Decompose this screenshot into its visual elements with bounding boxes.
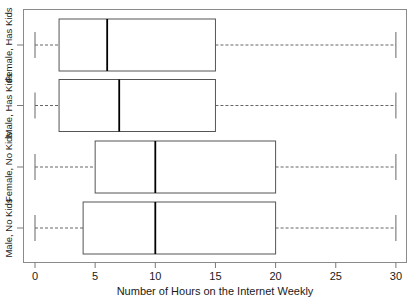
boxplot-group xyxy=(35,202,396,254)
box-iqr xyxy=(95,141,275,193)
x-tick-label: 0 xyxy=(32,270,38,282)
box-iqr xyxy=(59,19,215,71)
boxplot-group xyxy=(35,19,396,71)
x-tick-label: 15 xyxy=(209,270,221,282)
boxplot-group xyxy=(35,141,396,193)
x-tick-label: 5 xyxy=(92,270,98,282)
box-iqr xyxy=(59,80,215,132)
x-tick-label: 10 xyxy=(149,270,161,282)
y-category-label: Male, Has Kids xyxy=(3,73,14,137)
x-axis: 051015202530 xyxy=(32,263,402,283)
box-iqr xyxy=(83,202,275,254)
y-category-label: Female, No Kids xyxy=(3,132,14,202)
boxplot-canvas: 051015202530 Female, Has KidsMale, Has K… xyxy=(0,0,417,305)
boxplot-group xyxy=(35,80,396,132)
y-category-label: Male, No Kids xyxy=(3,198,14,257)
boxplot-figure: 051015202530 Female, Has KidsMale, Has K… xyxy=(0,0,417,305)
x-tick-label: 30 xyxy=(390,270,402,282)
y-category-label: Female, Has Kids xyxy=(3,7,14,82)
x-tick-label: 25 xyxy=(330,270,342,282)
x-axis-title: Number of Hours on the Internet Weekly xyxy=(117,285,314,297)
y-axis: Female, Has KidsMale, Has KidsFemale, No… xyxy=(3,7,24,257)
x-tick-label: 20 xyxy=(269,270,281,282)
boxes-layer xyxy=(35,19,396,254)
